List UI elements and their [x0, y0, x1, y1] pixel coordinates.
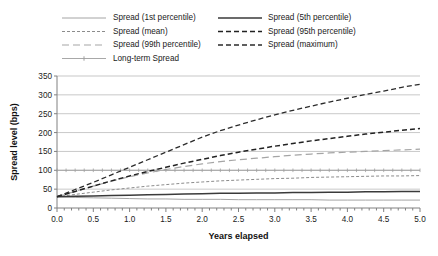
spread-level-chart: Spread (1st percentile)Spread (mean)Spre… — [0, 0, 438, 256]
legend-label: Spread (1st percentile) — [113, 13, 196, 22]
x-tick-label: 0.5 — [88, 215, 100, 224]
y-tick-label: 50 — [43, 185, 53, 194]
x-axis-title: Years elapsed — [208, 231, 268, 241]
x-tick-label: 2.0 — [197, 215, 209, 224]
y-tick-label: 300 — [38, 91, 52, 100]
x-tick-label: 1.0 — [124, 215, 136, 224]
chart-background — [0, 0, 438, 256]
y-tick-label: 150 — [38, 147, 52, 156]
y-tick-label: 250 — [38, 110, 52, 119]
x-tick-label: 4.0 — [342, 215, 354, 224]
x-tick-label: 2.5 — [233, 215, 245, 224]
legend-label: Spread (5th percentile) — [268, 13, 352, 22]
legend-label: Long-term Spread — [113, 54, 179, 63]
x-tick-label: 5.0 — [414, 215, 426, 224]
x-tick-label: 3.0 — [269, 215, 281, 224]
y-tick-label: 350 — [38, 72, 52, 81]
x-tick-label: 4.5 — [378, 215, 390, 224]
y-axis-title: Spread level (bps) — [9, 103, 19, 181]
x-tick-label: 1.5 — [160, 215, 172, 224]
x-tick-label: 0.0 — [51, 215, 63, 224]
y-tick-label: 200 — [38, 129, 52, 138]
x-tick-label: 3.5 — [305, 215, 317, 224]
legend-label: Spread (mean) — [113, 27, 168, 36]
legend-label: Spread (95th percentile) — [268, 27, 356, 36]
y-tick-label: 100 — [38, 166, 52, 175]
legend-label: Spread (99th percentile) — [113, 40, 201, 49]
legend-label: Spread (maximum) — [268, 40, 338, 49]
y-tick-label: 0 — [47, 204, 52, 213]
